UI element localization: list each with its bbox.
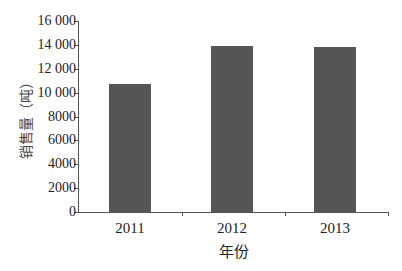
bar-2012 (211, 46, 253, 212)
y-axis-title: 销售量（吨） (15, 75, 35, 159)
y-axis-line (78, 21, 79, 213)
x-axis-title: 年份 (204, 240, 264, 261)
x-category-label: 2013 (305, 220, 365, 237)
y-tick-label: 6000 (48, 133, 76, 147)
bar-2013 (314, 47, 356, 212)
bar-chart: 0200040006000800010 00012 00014 00016 00… (0, 0, 402, 271)
y-tick-label: 2000 (48, 181, 76, 195)
x-tick (285, 212, 286, 216)
x-axis-line (78, 212, 389, 213)
bar-2011 (109, 84, 151, 212)
x-category-label: 2011 (100, 220, 160, 237)
x-tick (388, 212, 389, 216)
x-category-label: 2012 (202, 220, 262, 237)
y-tick-label: 0 (69, 205, 76, 219)
y-tick-label: 16 000 (38, 14, 77, 28)
y-tick-label: 10 000 (38, 86, 77, 100)
y-tick-label: 4000 (48, 157, 76, 171)
y-tick-label: 8000 (48, 110, 76, 124)
y-tick-label: 14 000 (38, 38, 77, 52)
y-tick-label: 12 000 (38, 62, 77, 76)
x-tick (182, 212, 183, 216)
